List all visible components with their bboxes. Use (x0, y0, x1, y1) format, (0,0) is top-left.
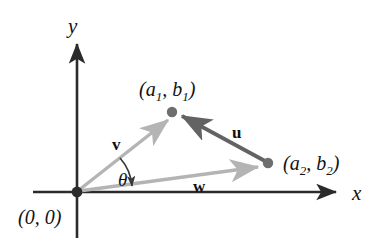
vector-diagram-svg: y x (0, 0) (a1, b1) (a2, b2) v w u θ (0, 0, 385, 238)
a2b2-b: b (316, 152, 326, 174)
a1b1-close-paren: ) (188, 78, 196, 101)
a2b2-a: a (290, 152, 300, 174)
a1b1-comma: , (162, 78, 172, 100)
vector-w-label: w (193, 177, 206, 196)
vector-v-label: v (112, 135, 121, 154)
origin-point-label: (0, 0) (18, 206, 62, 229)
y-axis-label: y (66, 14, 78, 38)
point-a2b2-dot (263, 158, 273, 168)
origin-dot (72, 187, 83, 198)
angle-theta-label: θ (118, 169, 127, 190)
a1b1-b: b (172, 78, 182, 100)
a2b2-close-paren: ) (332, 152, 340, 175)
a2b2-comma: , (306, 152, 316, 174)
point-a1b1-dot (167, 107, 177, 117)
vector-diagram-canvas: y x (0, 0) (a1, b1) (a2, b2) v w u θ (0, 0, 385, 238)
vector-u-label: u (232, 123, 241, 142)
x-axis-label: x (351, 181, 362, 205)
figure-background (0, 0, 385, 238)
a1b1-a: a (146, 78, 156, 100)
